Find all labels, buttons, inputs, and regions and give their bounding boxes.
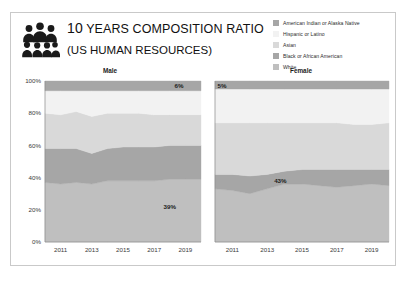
area-band [45, 145, 201, 184]
legend-label: Black or African American [283, 53, 342, 59]
legend-item[interactable]: Asian [273, 40, 397, 50]
legend-swatch-icon [273, 42, 279, 48]
legend-item[interactable]: American Indian or Alaska Native [273, 18, 397, 28]
card-header: 10 YEARS COMPOSITION RATIO (US HUMAN RES… [11, 13, 397, 69]
legend-label: American Indian or Alaska Native [283, 20, 360, 26]
y-tick-label: 40% [29, 174, 42, 181]
area-band [215, 89, 389, 124]
x-tick-label: 2019 [179, 246, 193, 253]
x-tick-label: 2011 [226, 246, 240, 253]
y-tick-label: 80% [29, 109, 42, 116]
legend-label: Asian [283, 42, 296, 48]
x-tick-label: 2015 [295, 246, 309, 253]
title-block: 10 YEARS COMPOSITION RATIO (US HUMAN RES… [67, 19, 264, 59]
group-of-people-icon [20, 19, 60, 59]
legend-item[interactable]: Hispanic or Latino [273, 29, 397, 39]
page-subtitle: (US HUMAN RESOURCES) [67, 42, 264, 59]
legend: American Indian or Alaska NativeHispanic… [273, 18, 397, 73]
x-tick-label: 2013 [85, 246, 99, 253]
x-tick-label: 2017 [330, 246, 344, 253]
y-tick-label: 20% [29, 206, 42, 213]
panel-male: Male 0%20%40%60%80%100%20112013201520172… [15, 67, 205, 266]
area-chart-female: 201120132015201720195%43% [207, 67, 395, 266]
x-tick-label: 2017 [147, 246, 161, 253]
data-label: 43% [274, 177, 287, 184]
area-band [45, 91, 201, 117]
area-chart-male: 0%20%40%60%80%100%201120132015201720196%… [15, 67, 205, 266]
page-title: 10 YEARS COMPOSITION RATIO [67, 19, 264, 38]
panel-female: Female 201120132015201720195%43% [207, 67, 395, 266]
legend-swatch-icon [273, 53, 279, 59]
data-label: 6% [174, 82, 183, 89]
y-tick-label: 0% [32, 238, 41, 245]
legend-item[interactable]: Black or African American [273, 51, 397, 61]
x-tick-label: 2015 [116, 246, 130, 253]
area-band [45, 179, 201, 242]
x-tick-label: 2013 [260, 246, 274, 253]
y-tick-label: 60% [29, 142, 42, 149]
title-rest: YEARS COMPOSITION RATIO [83, 22, 264, 36]
data-label: 39% [164, 203, 177, 210]
x-tick-label: 2019 [365, 246, 379, 253]
area-band [215, 81, 389, 89]
legend-swatch-icon [273, 31, 279, 37]
area-band [215, 123, 389, 176]
x-tick-label: 2011 [54, 246, 68, 253]
chart-card: 10 YEARS COMPOSITION RATIO (US HUMAN RES… [10, 12, 396, 266]
legend-label: Hispanic or Latino [283, 31, 325, 37]
legend-swatch-icon [273, 20, 279, 26]
data-label: 5% [218, 82, 227, 89]
title-lead: 10 [67, 20, 83, 36]
plot-area: Male 0%20%40%60%80%100%20112013201520172… [11, 67, 397, 266]
area-band [215, 184, 389, 242]
y-tick-label: 100% [25, 77, 41, 84]
